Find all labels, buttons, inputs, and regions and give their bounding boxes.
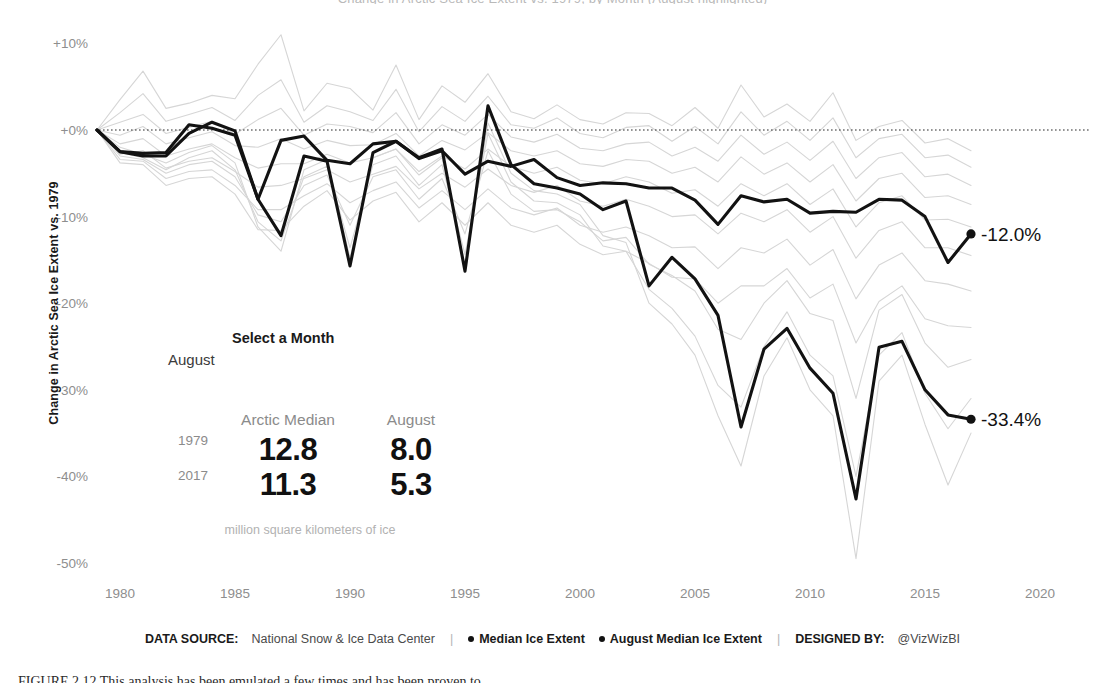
context-series-line [97,130,971,299]
series-end-dot [966,415,975,424]
stats-cell-month: 8.0 [358,432,464,467]
chart-legend: Median Ice ExtentAugust Median Ice Exten… [468,632,762,646]
footer-designer-value: @VizWizBI [898,632,960,646]
y-axis-tick-label: -30% [56,383,88,398]
y-axis-title: Change in Arctic Sea Ice Extent vs. 1979 [47,153,61,453]
y-axis-tick-label: -40% [56,469,88,484]
series-end-labels: -12.0%-33.4% [966,224,1041,430]
stats-row: 197912.88.0 [156,432,464,467]
stats-table: Arctic Median August 197912.88.0201711.3… [156,411,464,503]
legend-label: August Median Ice Extent [610,632,762,646]
stats-header-year [156,411,218,432]
x-axis-ticks: 198019851990199520002005201020152020 [105,586,1055,601]
legend-label: Median Ice Extent [479,632,585,646]
footer-designer-label: DESIGNED BY: [795,632,884,646]
stats-cell-median: 11.3 [218,467,358,502]
stats-cell-year: 2017 [156,467,218,502]
summary-info-panel: Select a Month August Arctic Median Augu… [156,325,464,550]
stats-header-median: Arctic Median [218,411,358,432]
legend-item[interactable]: August Median Ice Extent [599,632,762,646]
stats-cell-month: 5.3 [358,467,464,502]
y-axis-tick-label: -10% [56,210,88,225]
highlight-series-line[interactable] [97,125,971,263]
stats-footnote: million square kilometers of ice [156,523,464,537]
x-axis-tick-label: 2000 [565,586,595,601]
figure-root: Change in Arctic Sea Ice Extent vs. 1979… [0,0,1105,683]
stats-body: 197912.88.0201711.35.3 [156,432,464,503]
footer-separator-1: | [448,632,455,646]
footer-source-value: National Snow & Ice Data Center [252,632,435,646]
stats-header-row: Arctic Median August [156,411,464,432]
x-axis-tick-label: 2010 [795,586,825,601]
month-picker-label: Select a Month [232,330,334,346]
chart-footer: DATA SOURCE: National Snow & Ice Data Ce… [0,632,1105,646]
y-axis-tick-label: -20% [56,296,88,311]
y-axis-tick-label: +0% [61,123,88,138]
series-end-label: -33.4% [981,409,1041,430]
footer-source-label: DATA SOURCE: [145,632,239,646]
x-axis-tick-label: 1990 [335,586,365,601]
stats-row: 201711.35.3 [156,467,464,502]
x-axis-tick-label: 2015 [910,586,940,601]
stats-cell-year: 1979 [156,432,218,467]
legend-dot-icon [468,636,474,642]
x-axis-tick-label: 1995 [450,586,480,601]
context-series-line [97,130,971,258]
context-series-line [97,130,971,343]
footer-separator-2: | [775,632,782,646]
month-picker[interactable]: Select a Month August [156,325,464,371]
stats-header-month: August [358,411,464,432]
legend-dot-icon [599,636,605,642]
stats-cell-median: 12.8 [218,432,358,467]
x-axis-tick-label: 2020 [1025,586,1055,601]
y-axis-tick-label: -50% [56,556,88,571]
context-series-line [97,108,971,185]
figure-bottom-caption: FIGURE 2.12 This analysis has been emula… [18,674,1088,683]
x-axis-tick-label: 1980 [105,586,135,601]
series-end-dot [966,229,975,238]
month-picker-value[interactable]: August [168,351,215,368]
y-axis-tick-label: +10% [53,36,88,51]
series-end-label: -12.0% [981,224,1041,245]
x-axis-tick-label: 2005 [680,586,710,601]
legend-item[interactable]: Median Ice Extent [468,632,585,646]
x-axis-tick-label: 1985 [220,586,250,601]
